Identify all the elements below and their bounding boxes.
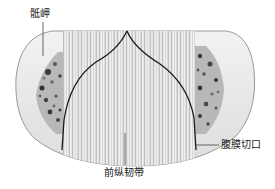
label-anterior-longitudinal-ligament: 前纵韧带: [104, 167, 144, 179]
label-sacral-promontory: 骶岬: [30, 8, 50, 20]
label-peritoneal-incision: 腹膜切口: [221, 139, 261, 151]
anterior-longitudinal-ligament: [63, 28, 195, 170]
anatomy-illustration: [0, 0, 275, 189]
